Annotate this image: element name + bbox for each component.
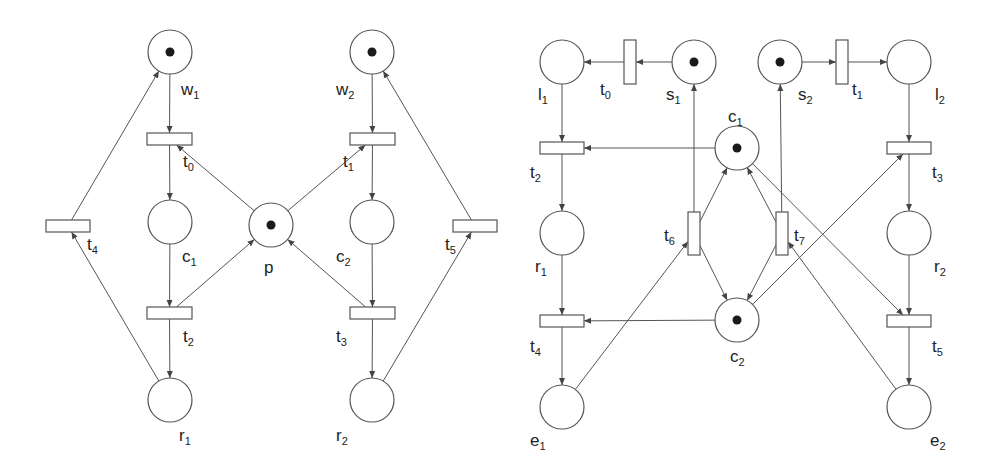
place-circle	[148, 378, 192, 422]
transition-left-t4	[46, 220, 90, 232]
transition-label-left-t5: t5	[445, 235, 456, 256]
place-circle	[350, 378, 394, 422]
transition-label-right-t7: t7	[794, 226, 805, 247]
token-dot	[733, 316, 742, 325]
place-left-c2	[350, 200, 394, 244]
place-circle	[540, 211, 584, 255]
transition-right-t1	[836, 40, 848, 84]
arc-left-t3-to-p	[288, 239, 366, 307]
place-right-e2	[887, 385, 931, 429]
place-left-w1	[148, 30, 192, 74]
place-right-c1	[715, 126, 759, 170]
transition-left-t0	[147, 133, 192, 145]
place-label-left-w1: w1	[180, 80, 199, 101]
place-label-right-r1: r1	[535, 257, 547, 278]
token-dot	[733, 144, 742, 153]
transition-label-right-t3: t3	[932, 163, 943, 184]
transition-label-right-t6: t6	[664, 226, 675, 247]
token-dot	[776, 58, 785, 67]
place-right-l2	[887, 40, 931, 84]
place-right-s1	[672, 40, 716, 84]
transition-label-right-t4: t4	[530, 337, 541, 358]
place-left-r2	[350, 378, 394, 422]
place-label-left-c1: c1	[182, 247, 197, 268]
place-right-e1	[540, 385, 584, 429]
place-circle	[350, 200, 394, 244]
transition-left-t1	[350, 133, 395, 145]
place-label-right-s1: s1	[666, 85, 681, 106]
petri-net-canvas: w1w2c1pc2r1r2t0t1t4t5t2t3l1s1s2l2c1r1r2c…	[0, 0, 994, 467]
token-dot	[690, 58, 699, 67]
transition-label-left-t3: t3	[336, 327, 347, 348]
place-label-right-l2: l2	[935, 85, 945, 106]
transition-label-right-t0: t0	[600, 80, 611, 101]
place-label-left-r2: r2	[336, 426, 348, 447]
place-right-r1	[540, 211, 584, 255]
arc-right-c1-to-t5	[753, 164, 904, 315]
place-left-r1	[148, 378, 192, 422]
transition-right-t4	[540, 315, 584, 327]
place-right-s2	[758, 40, 802, 84]
place-circle	[540, 40, 584, 84]
arc-left-t4-to-w1	[72, 71, 159, 220]
place-label-right-l1: l1	[538, 85, 548, 106]
arc-right-t7-to-c1	[747, 167, 776, 222]
arc-right-t6-to-c2	[700, 246, 727, 301]
place-left-w2	[350, 30, 394, 74]
transition-right-t2	[540, 142, 584, 154]
place-label-right-e1: e1	[530, 431, 546, 452]
place-label-right-e2: e2	[930, 431, 946, 452]
transition-right-t7	[776, 212, 788, 255]
transition-label-right-t1: t1	[852, 80, 863, 101]
place-right-l1	[540, 40, 584, 84]
transition-label-right-t2: t2	[530, 163, 541, 184]
transition-label-left-t1: t1	[343, 152, 354, 173]
token-dot	[267, 221, 276, 230]
place-label-right-c2: c2	[730, 347, 745, 368]
place-label-right-c1: c1	[728, 107, 743, 128]
transition-right-t5	[887, 315, 931, 327]
arc-right-c2-to-t4	[584, 320, 715, 321]
place-label-left-w2: w2	[335, 80, 354, 101]
transition-left-t3	[350, 307, 395, 319]
place-circle	[887, 385, 931, 429]
arc-right-t7-to-c2	[747, 245, 776, 300]
place-label-left-c2: c2	[336, 247, 351, 268]
place-left-c1	[148, 200, 192, 244]
arc-right-t6-to-c1	[700, 168, 727, 222]
arc-left-r2-to-t5	[383, 232, 471, 381]
token-dot	[166, 48, 175, 57]
arc-right-e1-to-t6	[575, 241, 688, 389]
place-label-left-p: p	[264, 258, 273, 277]
labels-layer: w1w2c1pc2r1r2t0t1t4t5t2t3l1s1s2l2c1r1r2c…	[87, 80, 946, 452]
place-circle	[540, 385, 584, 429]
place-circle	[887, 211, 931, 255]
arc-left-p-to-t1	[288, 145, 366, 211]
transition-left-t2	[147, 307, 192, 319]
token-dot	[368, 48, 377, 57]
transition-right-t3	[887, 142, 931, 154]
place-right-c2	[715, 298, 759, 342]
transition-left-t5	[453, 220, 497, 232]
place-label-left-r1: r1	[179, 426, 191, 447]
place-circle	[148, 200, 192, 244]
arc-right-e2-to-t7	[788, 242, 896, 390]
arc-left-r1-to-t4	[72, 232, 159, 381]
place-circle	[887, 40, 931, 84]
transition-right-t6	[688, 212, 700, 255]
place-label-right-r2: r2	[934, 257, 946, 278]
place-right-r2	[887, 211, 931, 255]
arc-left-t5-to-w2	[383, 71, 471, 220]
arc-left-p-to-t0	[177, 145, 255, 211]
place-label-right-s2: s2	[798, 85, 813, 106]
place-left-p	[249, 203, 293, 247]
transition-label-left-t2: t2	[183, 327, 194, 348]
transition-label-left-t4: t4	[87, 235, 98, 256]
transition-label-right-t5: t5	[932, 337, 943, 358]
arc-right-c2-to-t3	[753, 154, 903, 304]
transition-right-t0	[624, 40, 636, 84]
